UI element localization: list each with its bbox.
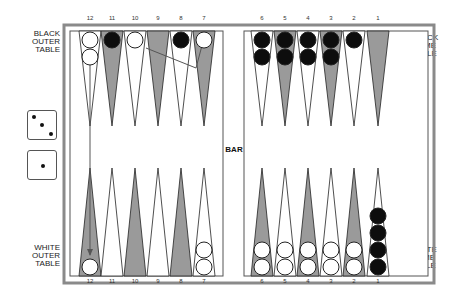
die-one [27,150,57,180]
checker-black-top-11[interactable] [104,32,120,48]
checker-white-bottom-5[interactable] [277,259,293,275]
point-number-top-3: 3 [323,15,339,21]
checker-black-top-4[interactable] [300,32,316,48]
checker-black-top-6[interactable] [254,49,270,65]
point-number-top-9: 9 [150,15,166,21]
bar-label: BAR [225,145,243,154]
point-number-top-6: 6 [254,15,270,21]
point-number-bottom-1: 1 [370,278,386,284]
checker-black-bottom-1[interactable] [370,242,386,258]
checker-black-top-3[interactable] [323,49,339,65]
checker-white-bottom-7[interactable] [196,259,212,275]
checker-white-bottom-3[interactable] [323,242,339,258]
pip-icon [49,132,53,136]
checker-white-bottom-2[interactable] [346,259,362,275]
point-number-bottom-7: 7 [196,278,212,284]
checker-white-bottom-12[interactable] [82,259,98,275]
checker-black-bottom-1[interactable] [370,208,386,224]
checker-white-bottom-3[interactable] [323,259,339,275]
checker-black-top-5[interactable] [277,32,293,48]
checker-black-top-6[interactable] [254,32,270,48]
checker-white-bottom-5[interactable] [277,242,293,258]
point-number-top-4: 4 [300,15,316,21]
checker-black-top-4[interactable] [300,49,316,65]
point-number-top-12: 12 [82,15,98,21]
checker-black-top-8[interactable] [173,32,189,48]
point-number-bottom-9: 9 [150,278,166,284]
checker-white-bottom-2[interactable] [346,242,362,258]
point-number-bottom-5: 5 [277,278,293,284]
point-number-bottom-8: 8 [173,278,189,284]
checker-black-top-2[interactable] [346,32,362,48]
point-number-bottom-11: 11 [104,278,120,284]
checker-white-bottom-6[interactable] [254,259,270,275]
point-number-top-11: 11 [104,15,120,21]
pip-icon [32,115,36,119]
point-number-bottom-2: 2 [346,278,362,284]
checker-white-bottom-6[interactable] [254,242,270,258]
die-three [27,110,57,140]
point-number-top-5: 5 [277,15,293,21]
point-number-bottom-10: 10 [127,278,143,284]
checker-black-top-3[interactable] [323,32,339,48]
checker-black-bottom-1[interactable] [370,225,386,241]
point-number-top-10: 10 [127,15,143,21]
checker-white-top-12[interactable] [82,32,98,48]
checker-black-top-5[interactable] [277,49,293,65]
point-number-bottom-12: 12 [82,278,98,284]
checker-black-bottom-1[interactable] [370,259,386,275]
point-number-bottom-6: 6 [254,278,270,284]
checker-white-top-7[interactable] [196,32,212,48]
point-number-top-1: 1 [370,15,386,21]
checker-white-bottom-4[interactable] [300,242,316,258]
checker-white-top-12[interactable] [82,49,98,65]
checker-white-bottom-7[interactable] [196,242,212,258]
checker-white-bottom-4[interactable] [300,259,316,275]
point-number-bottom-4: 4 [300,278,316,284]
point-number-top-8: 8 [173,15,189,21]
checker-white-top-10[interactable] [127,32,143,48]
pip-icon [41,164,45,168]
point-number-bottom-3: 3 [323,278,339,284]
pip-icon [40,123,44,127]
point-number-top-2: 2 [346,15,362,21]
point-number-top-7: 7 [196,15,212,21]
